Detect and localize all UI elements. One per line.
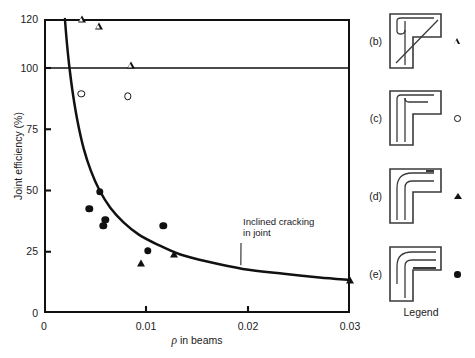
marker-glyph-open-circle: [454, 115, 461, 122]
knee-joint-detail-b: [386, 11, 445, 71]
x-tick-label-0.02: 0.02: [238, 321, 258, 332]
knee-joint-diagram-c: [386, 88, 445, 148]
inclined-cracking-annotation: Inclined cracking in joint: [243, 216, 314, 239]
legend-tag: (e): [356, 269, 382, 280]
legend-item-c: (c): [356, 87, 475, 151]
reinforcement-bar: [397, 21, 405, 34]
marker-glyph-filled-triangle: [454, 193, 462, 199]
annotation-line-2: in joint: [243, 227, 314, 238]
marker-glyph-open-triangle: [454, 38, 460, 44]
x-axis-title: ρ in beams: [44, 334, 350, 346]
x-axis-title-text: in beams: [177, 334, 223, 346]
reinforcement-bar: [405, 98, 428, 102]
legend-marker-open-triangle: [454, 38, 460, 44]
legend-marker-open-circle: [454, 115, 461, 122]
legend-marker-filled-circle: [454, 271, 461, 278]
knee-joint-detail-c: [386, 88, 445, 148]
legend-item-b: (b): [356, 10, 475, 74]
marker-glyph-filled-circle: [454, 271, 461, 278]
legend-tag: (c): [356, 113, 382, 124]
knee-joint-diagram-d: [386, 166, 445, 226]
knee-joint-diagram-b: [386, 11, 445, 71]
legend-tag: (b): [356, 36, 382, 47]
data-point-open-triangle: [78, 16, 86, 23]
x-tick-label-0: 0: [41, 321, 47, 332]
knee-joint-diagram-e: [386, 244, 445, 304]
legend-marker-filled-triangle: [454, 193, 462, 199]
legend-item-e: (e): [356, 243, 475, 307]
joint-efficiency-figure: 0255075100120 00.010.020.03 Joint effici…: [0, 0, 475, 358]
reinforcement-bar: [405, 260, 436, 298]
data-point-open-triangle: [95, 23, 103, 30]
reinforcement-bar: [397, 173, 434, 220]
annotation-line-1: Inclined cracking: [243, 216, 314, 227]
data-point-open-triangle: [127, 61, 135, 68]
knee-joint-detail-d: [386, 166, 445, 226]
legend-item-d: (d): [356, 165, 475, 229]
data-point-filled-triangle: [170, 251, 178, 258]
x-tick-label-0.01: 0.01: [136, 321, 156, 332]
knee-joint-detail-e: [386, 244, 445, 304]
data-point-filled-triangle: [346, 276, 354, 283]
y-axis-title: Joint efficiency (%): [12, 86, 24, 226]
reinforcement-bar: [396, 20, 438, 63]
legend-caption: Legend: [376, 306, 466, 318]
reinforcement-bar: [405, 181, 434, 220]
legend-tag: (d): [356, 191, 382, 202]
legend-panel: (b)(c)(d)(e) Legend: [356, 0, 475, 358]
data-point-filled-triangle: [137, 259, 145, 266]
